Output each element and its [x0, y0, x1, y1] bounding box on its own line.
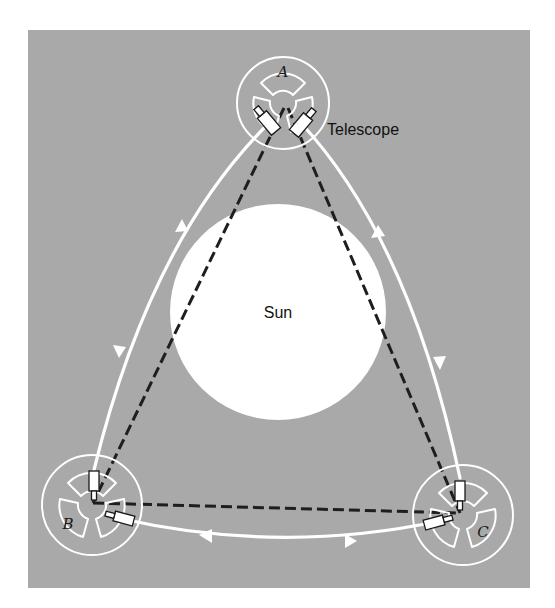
station-b-label: B	[61, 515, 73, 533]
sun-label: Sun	[264, 304, 292, 321]
telescope-callout: Telescope	[327, 121, 399, 138]
station-c-label: C	[477, 523, 489, 541]
station-a-label: A	[276, 63, 289, 81]
diagram-canvas: Sun A	[0, 0, 555, 608]
